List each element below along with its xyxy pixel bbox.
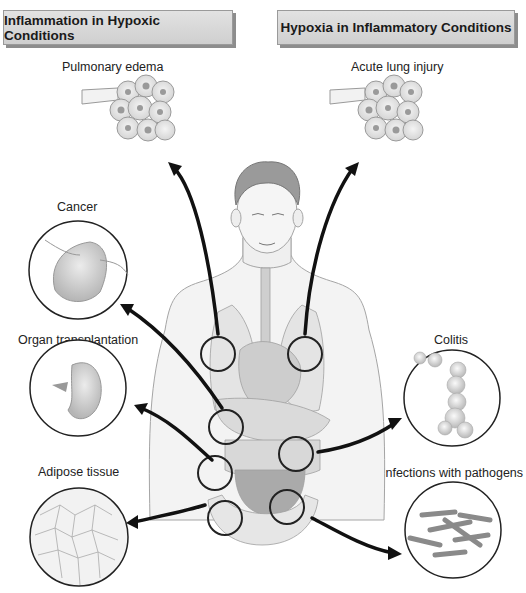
- colitis-colon-icon: [404, 350, 500, 446]
- internal-organs-icon: [208, 268, 330, 545]
- kidney-transplant-icon: [30, 340, 126, 436]
- diagram-illustration: [0, 0, 526, 593]
- adipose-tissue-icon: [30, 488, 128, 586]
- pathogens-bacteria-icon: [405, 482, 501, 578]
- cancer-tumor-icon: [29, 221, 128, 319]
- acute-lung-injury-alveoli-icon: [330, 75, 423, 141]
- pulmonary-edema-alveoli-icon: [82, 75, 175, 141]
